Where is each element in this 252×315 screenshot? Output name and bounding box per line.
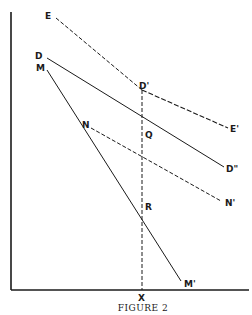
label-nprime: N'	[225, 198, 235, 208]
label-ddoubleprime: D"	[226, 164, 238, 174]
line-n-nprime	[91, 128, 221, 201]
label-mprime: M'	[184, 279, 196, 289]
figure-2-diagram: E D M N D' E' D" N' M' Q R X FIGURE 2	[0, 0, 252, 315]
line-dprime-eprime	[142, 90, 228, 128]
label-dprime: D'	[139, 81, 149, 91]
label-m: M	[36, 63, 45, 73]
label-e: E	[45, 11, 51, 21]
label-eprime: E'	[230, 124, 239, 134]
label-x: X	[138, 293, 145, 303]
label-q: Q	[145, 130, 153, 140]
label-n: N	[82, 120, 90, 130]
label-d: D	[35, 51, 42, 61]
line-m-mprime	[47, 70, 181, 281]
line-e-dprime	[56, 18, 142, 90]
figure-caption: FIGURE 2	[118, 303, 169, 313]
label-r: R	[145, 202, 152, 212]
